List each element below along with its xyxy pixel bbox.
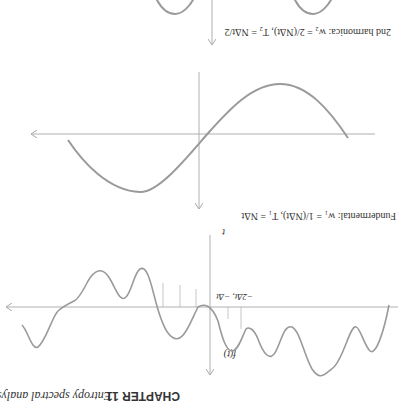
fundamental-caption: Fundermental: w₁ = 1/(NΔt), T₁ = NΔt [241,210,396,222]
fundamental-panel: Fundermental: w₁ = 1/(NΔt), T₁ = NΔt [31,72,396,222]
diagram-canvas: CHAPTER 11 Entropy spectral analysis f(t… [0,0,408,411]
chapter-heading: CHAPTER 11 Entropy spectral analysis [0,389,180,403]
second-harmonic-panel: 2nd harmonica: w₂ = 2/(NΔt), T₂ = NΔt/2 [155,0,391,45]
signal-panel: f(t) t −2Δt, −Δt [6,227,398,376]
signal-curve [22,268,389,375]
chapter-heading-title: Entropy spectral analysis [0,389,112,403]
second-harmonic-wave-left [293,0,333,14]
signal-x-label: t [222,227,225,238]
fundamental-sine [68,84,348,192]
second-harmonic-caption: 2nd harmonica: w₂ = 2/(NΔt), T₂ = NΔt/2 [225,26,391,38]
signal-tick-label: −2Δt, −Δt [216,292,253,302]
chapter-heading-bold: CHAPTER 11 [106,389,180,403]
figure-page: CHAPTER 11 Entropy spectral analysis f(t… [0,0,408,411]
second-harmonic-wave-right [155,0,195,14]
